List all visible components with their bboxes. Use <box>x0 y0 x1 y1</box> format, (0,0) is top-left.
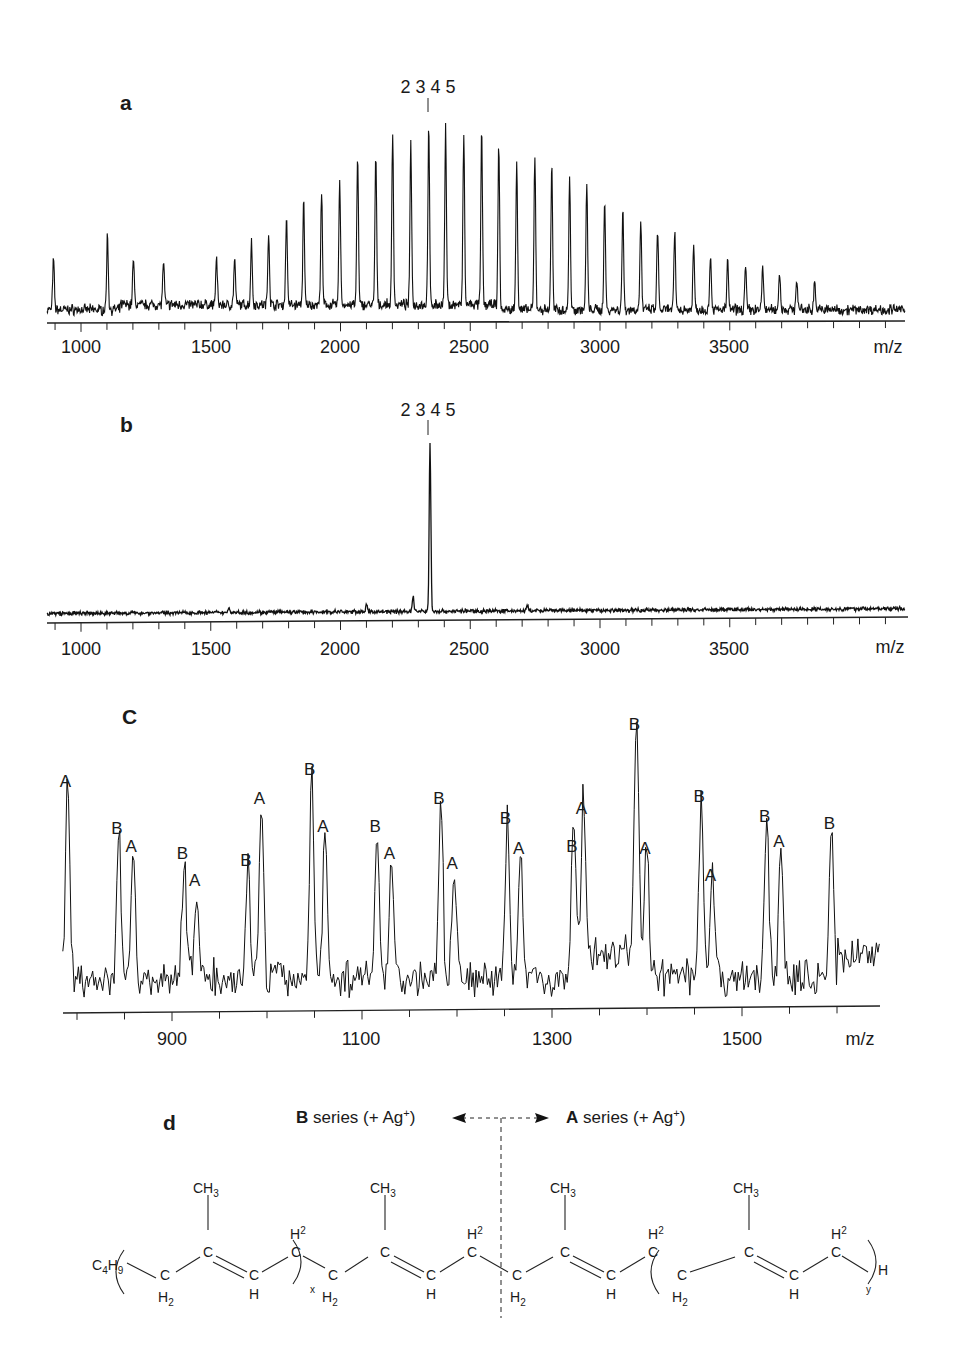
x-axis-unit: m/z <box>874 337 903 357</box>
tick-label: 3500 <box>709 337 749 357</box>
a-series-bold: A <box>566 1108 578 1127</box>
peak-label-b: B <box>693 787 704 806</box>
peak-label-a: A <box>639 839 651 858</box>
panel-c-letter: C <box>122 705 137 728</box>
panel-b-annotation: 2 3 4 5 <box>400 400 455 420</box>
peak-label-a: A <box>317 817 329 836</box>
peak-label-a: A <box>513 839 525 858</box>
tick-label: 1000 <box>61 337 101 357</box>
tick-label: 3000 <box>580 337 620 357</box>
peak-label-a: A <box>254 789 266 808</box>
peak-label-b: B <box>824 814 835 833</box>
tick-label: 1100 <box>342 1029 381 1049</box>
peak-label-b: B <box>370 817 381 836</box>
tick-label: 2500 <box>449 639 489 659</box>
atom-h: H <box>426 1286 436 1302</box>
atom-c: C <box>744 1244 754 1260</box>
peak-label-b: B <box>177 844 188 863</box>
atom-h2: H2 <box>510 1289 526 1308</box>
peak-label-a: A <box>773 832 785 851</box>
atom-c: C <box>160 1267 170 1283</box>
peak-label-b: B <box>500 809 511 828</box>
arrow-left-icon <box>452 1113 466 1123</box>
atom-c: C <box>560 1244 570 1260</box>
peak-label-a: A <box>576 799 588 818</box>
x-axis-unit: m/z <box>876 637 905 657</box>
panel-d-letter: d <box>163 1111 176 1134</box>
panel-b-trace <box>47 443 905 616</box>
panel-b-spectrum: b 2 3 4 5 1000 1500 2000 2500 3000 3500 … <box>47 400 908 659</box>
atom-c: C <box>648 1244 658 1260</box>
a-series-close: ) <box>680 1108 686 1127</box>
peak-label-b: B <box>304 760 315 779</box>
panel-c-spectrum: C ABABABABABABABABABABABAB 900 1100 1300… <box>60 705 880 1049</box>
atom-c: C <box>831 1244 841 1260</box>
end-group-h: H <box>878 1262 888 1278</box>
b-series-close: ) <box>410 1108 416 1127</box>
tick-label: 1500 <box>191 337 231 357</box>
panel-c-x-axis <box>63 1006 880 1013</box>
panel-b-letter: b <box>120 413 133 436</box>
atom-h2: H2 <box>322 1289 338 1308</box>
end-group-c4h9: C4H9 <box>92 1257 124 1276</box>
a-series-text: series (+ Ag <box>578 1108 673 1127</box>
panel-a-letter: a <box>120 91 132 114</box>
tick-label: 1500 <box>191 639 231 659</box>
bracket-close-y <box>868 1240 876 1284</box>
tick-label: 2000 <box>320 639 360 659</box>
methyl-ch3: CH3 <box>550 1180 576 1199</box>
figure: a 2 3 4 5 1000 1500 2000 2500 3000 3500 … <box>0 0 954 1353</box>
panel-a-spectrum: a 2 3 4 5 1000 1500 2000 2500 3000 3500 … <box>47 77 905 357</box>
atom-h: H <box>789 1286 799 1302</box>
atom-h2: H2 <box>648 1225 664 1242</box>
tick-label: 2500 <box>449 337 489 357</box>
peak-label-a: A <box>125 837 137 856</box>
atom-c: C <box>328 1267 338 1283</box>
figure-canvas: a 2 3 4 5 1000 1500 2000 2500 3000 3500 … <box>0 0 954 1353</box>
peak-label-b: B <box>566 837 577 856</box>
atom-h: H <box>249 1286 259 1302</box>
methyl-ch3: CH3 <box>733 1180 759 1199</box>
atom-h2: H2 <box>290 1225 306 1242</box>
peak-label-b: B <box>240 851 251 870</box>
panel-c-ticks <box>77 1006 837 1021</box>
atom-c: C <box>467 1244 477 1260</box>
peak-label-b: B <box>111 819 122 838</box>
panel-b-x-axis <box>47 617 908 623</box>
atom-c: C <box>606 1267 616 1283</box>
atom-c: C <box>789 1267 799 1283</box>
tick-label: 3000 <box>580 639 620 659</box>
panel-d-structure: d B series (+ Ag+) A series (+ Ag+) <box>92 1107 888 1318</box>
panel-a-annotation: 2 3 4 5 <box>400 77 455 97</box>
panel-a-tick-labels: 1000 1500 2000 2500 3000 3500 m/z <box>61 337 903 357</box>
panel-b-tick-labels: 1000 1500 2000 2500 3000 3500 m/z <box>61 637 905 659</box>
methyl-ch3: CH3 <box>193 1180 219 1199</box>
a-series-label: A series (+ Ag+) <box>566 1107 685 1127</box>
atom-c: C <box>426 1267 436 1283</box>
atom-c: C <box>249 1267 259 1283</box>
b-series-text: series (+ Ag <box>308 1108 403 1127</box>
atom-c: C <box>203 1244 213 1260</box>
atom-h2: H2 <box>467 1225 483 1242</box>
peak-label-b: B <box>759 807 770 826</box>
tick-label: 1000 <box>61 639 101 659</box>
panel-c-peak-labels: ABABABABABABABABABABABAB <box>60 715 835 890</box>
tick-label: 1300 <box>532 1029 572 1049</box>
polymer-atoms: C4H9 C H2 C CH3 C H C H2 x C H2 C CH3 C … <box>92 1180 888 1308</box>
panel-c-tick-labels: 900 1100 1300 1500 m/z <box>157 1029 875 1049</box>
peak-label-a: A <box>60 772 72 791</box>
atom-h2: H2 <box>158 1289 174 1308</box>
peak-label-a: A <box>189 871 201 890</box>
atom-h2: H2 <box>672 1289 688 1308</box>
polymer-backbone <box>116 1195 876 1294</box>
atom-h2: H2 <box>831 1225 847 1242</box>
atom-h: H <box>606 1286 616 1302</box>
peak-label-b: B <box>629 715 640 734</box>
b-series-bold: B <box>296 1108 308 1127</box>
peak-label-a: A <box>446 854 458 873</box>
peak-label-a: A <box>384 844 396 863</box>
atom-c: C <box>380 1244 390 1260</box>
panel-a-trace <box>47 123 905 316</box>
tick-label: 2000 <box>320 337 360 357</box>
peak-label-a: A <box>705 866 717 885</box>
